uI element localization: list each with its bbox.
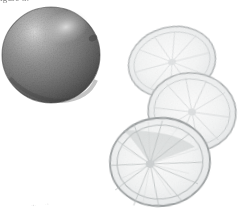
figure-canvas xyxy=(0,0,239,216)
citrus-fruit-figure: igure 3. ·▪· ·▫ xyxy=(0,0,239,216)
